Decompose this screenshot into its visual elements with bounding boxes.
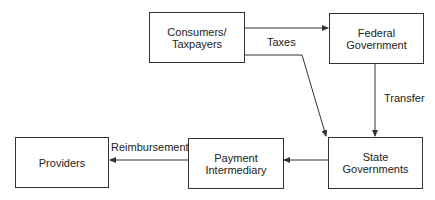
node-label: Intermediary	[205, 164, 266, 176]
edge-label-reimbursement: Reimbursement	[111, 141, 189, 153]
node-label: Governments	[342, 163, 408, 175]
edge-label-transfer: Transfer	[384, 92, 425, 104]
node-federal-government: FederalGovernment	[329, 13, 424, 64]
node-label: State	[342, 151, 408, 163]
node-consumers-taxpayers: Consumers/Taxpayers	[149, 12, 245, 63]
node-label: Consumers/	[167, 26, 226, 38]
node-providers: Providers	[15, 137, 109, 188]
node-label: Government	[346, 39, 407, 51]
node-state-governments: StateGovernments	[328, 137, 423, 189]
node-label: Federal	[346, 27, 407, 39]
edge-label-taxes: Taxes	[267, 36, 296, 48]
node-label: Taxpayers	[167, 38, 226, 50]
node-payment-intermediary: PaymentIntermediary	[188, 138, 284, 189]
node-label: Payment	[205, 152, 266, 164]
arrow-consumers-to-state	[244, 55, 326, 136]
node-label: Providers	[39, 157, 85, 169]
